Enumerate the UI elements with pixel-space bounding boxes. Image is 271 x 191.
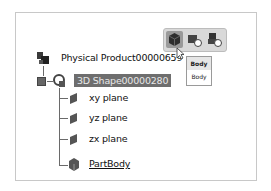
plane-icon <box>68 113 78 124</box>
tree-item-yz-plane[interactable]: yz plane <box>68 111 148 127</box>
3d-shape-icon <box>53 74 67 88</box>
tree-item-label: 3D Shape00000280 <box>74 74 171 87</box>
tree-connector <box>59 88 60 165</box>
tree-item-zx-plane[interactable]: zx plane <box>68 132 148 148</box>
ordered-geometrical-set-button[interactable] <box>206 31 223 48</box>
tree-item-label: yz plane <box>89 112 127 123</box>
geometrical-set-icon <box>186 31 203 48</box>
mouse-cursor-icon <box>176 47 185 60</box>
insert-toolbar <box>163 28 227 52</box>
tree-item-label: Physical Product00000659 <box>61 52 182 63</box>
tooltip: Body Body <box>186 56 212 86</box>
ordered-geometrical-set-icon <box>206 31 223 48</box>
tree-item-root[interactable]: Physical Product00000659 <box>36 50 176 66</box>
tree-item-3d-shape[interactable]: 3D Shape00000280 <box>37 73 157 89</box>
tree-connector <box>59 165 68 166</box>
physical-product-icon <box>36 51 50 65</box>
tree-item-partbody[interactable]: PartBody <box>68 157 148 173</box>
tree-item-label: zx plane <box>89 133 127 144</box>
plane-icon <box>68 93 78 104</box>
tree-item-xy-plane[interactable]: xy plane <box>68 91 148 107</box>
tree-connector <box>59 98 68 99</box>
tooltip-subtitle: Body <box>187 70 211 83</box>
body-button[interactable] <box>166 31 183 48</box>
tree-connector <box>59 139 68 140</box>
collapse-icon[interactable] <box>37 77 46 86</box>
body-icon <box>68 158 80 171</box>
tree-item-label: xy plane <box>89 92 128 103</box>
body-cube-icon <box>166 31 183 48</box>
tooltip-title: Body <box>187 57 211 70</box>
tree-connector <box>59 118 68 119</box>
geometrical-set-button[interactable] <box>186 31 203 48</box>
tree-item-label: PartBody <box>89 158 130 169</box>
plane-icon <box>68 134 78 145</box>
